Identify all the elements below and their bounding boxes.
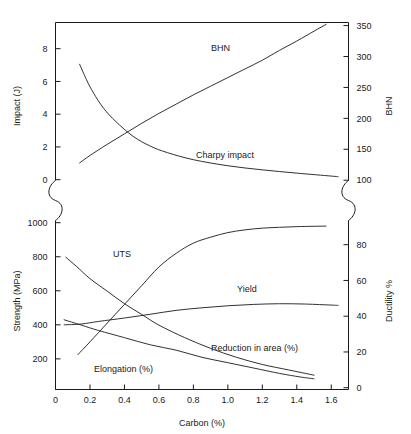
carbon-tick-label: 1.2 [256, 395, 269, 405]
strength-tick-label: 600 [32, 286, 47, 296]
impact-tick-label: 4 [42, 109, 47, 119]
ductility-tick-label: 0 [357, 383, 362, 393]
chart-background [0, 0, 411, 434]
carbon-steel-properties-chart: 02468 100150200250300350 200400600800100… [0, 0, 411, 434]
impact-tick-label: 6 [42, 77, 47, 87]
chart-figure: 02468 100150200250300350 200400600800100… [0, 0, 411, 434]
annotation-reduction-in-area: Reduction in area (%) [211, 343, 298, 353]
bhn-tick-label: 300 [357, 52, 372, 62]
carbon-tick-label: 0.4 [118, 395, 131, 405]
strength-tick-label: 1000 [27, 218, 47, 228]
strength-tick-label: 800 [32, 252, 47, 262]
carbon-tick-label: 1.4 [291, 395, 304, 405]
ductility-tick-label: 20 [357, 347, 367, 357]
carbon-tick-label: 0.6 [153, 395, 166, 405]
strength-tick-label: 400 [32, 320, 47, 330]
annotation-bhn: BHN [211, 43, 230, 53]
carbon-tick-label: 0 [53, 395, 58, 405]
carbon-tick-label: 1.6 [325, 395, 338, 405]
upper-left-axis-title: Impact (J) [12, 86, 22, 126]
impact-tick-label: 8 [42, 44, 47, 54]
annotation-uts: UTS [113, 249, 131, 259]
carbon-tick-label: 0.8 [187, 395, 200, 405]
lower-right-axis-title: Ductility % [384, 280, 394, 322]
x-axis-title: Carbon (%) [179, 418, 225, 428]
strength-tick-label: 200 [32, 354, 47, 364]
annotation-yield: Yield [237, 284, 257, 294]
impact-tick-label: 0 [42, 175, 47, 185]
bhn-tick-label: 100 [357, 175, 372, 185]
bhn-tick-label: 250 [357, 83, 372, 93]
carbon-tick-label: 1.0 [222, 395, 235, 405]
annotation-elongation: Elongation (%) [94, 364, 153, 374]
carbon-tick-label: 0.2 [84, 395, 97, 405]
ductility-tick-label: 60 [357, 276, 367, 286]
bhn-tick-label: 150 [357, 144, 372, 154]
annotation-charpy-impact: Charpy impact [196, 150, 255, 160]
ductility-tick-label: 40 [357, 311, 367, 321]
upper-right-axis-title: BHN [384, 96, 394, 115]
bhn-tick-label: 350 [357, 21, 372, 31]
lower-left-axis-title: Strength (MPa) [12, 270, 22, 331]
ductility-tick-label: 80 [357, 240, 367, 250]
impact-tick-label: 2 [42, 142, 47, 152]
bhn-tick-label: 200 [357, 114, 372, 124]
